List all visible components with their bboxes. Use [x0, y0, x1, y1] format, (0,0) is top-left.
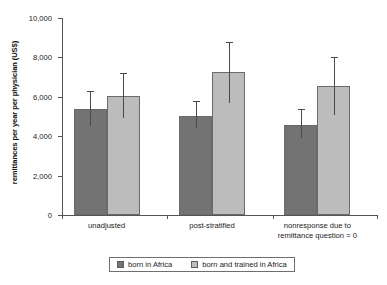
- y-tick: 2,000: [58, 176, 62, 177]
- x-tick: [377, 215, 378, 219]
- y-tick: 8,000: [58, 57, 62, 58]
- error-bar: [196, 101, 197, 129]
- error-bar: [123, 73, 124, 118]
- error-bar-cap: [226, 42, 233, 43]
- category-label: post-stratified: [189, 221, 235, 231]
- y-axis-line: [62, 18, 63, 216]
- y-tick: 4,000: [58, 136, 62, 137]
- error-bar: [301, 109, 302, 139]
- category-label: unadjusted: [88, 221, 125, 231]
- x-tick: [167, 215, 168, 219]
- legend-item[interactable]: born and trained in Africa: [191, 260, 286, 269]
- error-bar-cap: [298, 109, 305, 110]
- chart-legend: born in Africaborn and trained in Africa: [109, 257, 295, 272]
- category-label: nonresponse due toremittance question = …: [278, 221, 357, 241]
- y-tick-label: 4,000: [33, 132, 52, 141]
- error-bar-cap: [331, 57, 338, 58]
- y-tick-label: 8,000: [33, 53, 52, 62]
- y-tick-label: 10,000: [29, 14, 52, 23]
- y-tick-label: 2,000: [33, 171, 52, 180]
- x-axis-line: [62, 215, 378, 216]
- error-bar: [334, 57, 335, 114]
- error-bar: [90, 91, 91, 126]
- plot-area: 02,0004,0006,0008,00010,000 unadjustedpo…: [62, 18, 378, 215]
- legend-label: born in Africa: [128, 260, 172, 269]
- category-label-line: unadjusted: [88, 221, 125, 231]
- legend-swatch: [117, 261, 124, 268]
- error-bar-cap: [87, 91, 94, 92]
- category-label-line: remittance question = 0: [278, 231, 357, 241]
- legend-item[interactable]: born in Africa: [117, 260, 172, 269]
- y-tick-label: 0: [48, 211, 52, 220]
- bar: [179, 116, 212, 215]
- error-bar: [229, 42, 230, 103]
- y-tick-label: 6,000: [33, 92, 52, 101]
- x-tick: [273, 215, 274, 219]
- bar-chart-figure: remittances per year per physician (US$)…: [0, 0, 387, 285]
- y-tick: 6,000: [58, 97, 62, 98]
- y-axis-title: remittances per year per physician (US$): [10, 13, 19, 213]
- legend-label: born and trained in Africa: [202, 260, 286, 269]
- category-label-line: post-stratified: [189, 221, 235, 231]
- x-tick: [62, 215, 63, 219]
- bar: [284, 125, 317, 215]
- error-bar-cap: [193, 101, 200, 102]
- y-tick: 10,000: [58, 18, 62, 19]
- legend-swatch: [191, 261, 198, 268]
- category-label-line: nonresponse due to: [278, 221, 357, 231]
- error-bar-cap: [120, 73, 127, 74]
